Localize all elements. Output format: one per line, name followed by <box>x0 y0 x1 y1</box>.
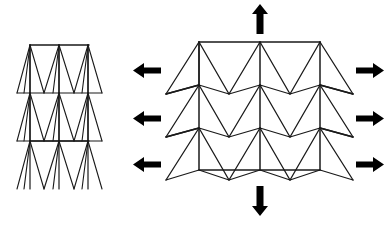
compressed-row-2 <box>17 93 102 141</box>
compressed-r1-leg-a <box>17 45 30 93</box>
compressed-r1-leg-l <box>88 45 102 93</box>
right-load-arrow-2 <box>356 111 384 126</box>
compressed-r1-leg-i <box>74 45 88 93</box>
compressed-r1-leg-e <box>44 45 59 93</box>
expanded-r3-chain <box>166 170 353 180</box>
compressed-r3-leg-f <box>53 141 59 189</box>
compressed-r2-leg-e <box>44 93 59 141</box>
compressed-r2-leg-i <box>74 93 88 141</box>
compressed-r2-leg-l <box>88 93 102 141</box>
compressed-r1-leg-f <box>53 45 59 93</box>
compressed-r2-leg-h <box>59 93 74 141</box>
compressed-r2-leg-d <box>30 93 44 141</box>
compressed-r3-leg-j <box>82 141 88 189</box>
right-load-arrow-1 <box>356 63 384 78</box>
compressed-r3-leg-e <box>44 141 59 189</box>
compressed-lattice-panel <box>17 45 102 189</box>
left-load-arrow-2 <box>133 111 161 126</box>
compressed-row-1 <box>17 45 102 93</box>
compressed-r1-leg-b <box>24 45 30 93</box>
top-load-arrow <box>252 4 268 34</box>
left-load-arrow-1 <box>133 63 161 78</box>
compressed-r3-leg-h <box>59 141 74 189</box>
load-arrow-group <box>133 4 384 216</box>
compressed-r2-leg-b <box>24 93 30 141</box>
expanded-lattice-panel <box>166 42 353 180</box>
lattice-diagram-svg <box>0 0 388 225</box>
right-load-arrow-3 <box>356 157 384 172</box>
compressed-r2-leg-j <box>82 93 88 141</box>
compressed-r3-leg-i <box>74 141 88 189</box>
figure-root <box>0 0 388 225</box>
compressed-r1-leg-h <box>59 45 74 93</box>
bottom-load-arrow <box>252 186 268 216</box>
compressed-r1-leg-d <box>30 45 44 93</box>
compressed-r3-leg-a <box>17 141 30 189</box>
compressed-r3-leg-b <box>24 141 30 189</box>
compressed-r3-leg-d <box>30 141 44 189</box>
compressed-r1-leg-j <box>82 45 88 93</box>
left-load-arrow-3 <box>133 157 161 172</box>
compressed-r2-leg-f <box>53 93 59 141</box>
expanded-row-3 <box>166 128 353 180</box>
compressed-r3-leg-l <box>88 141 102 189</box>
compressed-r2-leg-a <box>17 93 30 141</box>
